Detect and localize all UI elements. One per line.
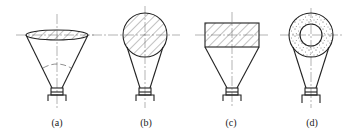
panel-label: (a) xyxy=(51,117,62,129)
cone-left-edge xyxy=(26,35,52,88)
panel-label: (b) xyxy=(140,117,152,129)
cone-right-edge xyxy=(62,35,88,88)
panel-label: (c) xyxy=(225,117,236,129)
panel-b: (b) xyxy=(92,6,180,129)
cone-left-edge xyxy=(205,47,227,88)
hatched-section xyxy=(205,23,259,47)
panel-d: (d) xyxy=(280,8,344,129)
panel-c: (c) xyxy=(195,12,268,129)
diagram-canvas: (a) (b) (c) (d) xyxy=(0,0,358,136)
cone-right-edge xyxy=(237,47,259,88)
panel-a: (a) xyxy=(16,14,96,129)
panel-label: (d) xyxy=(306,117,318,129)
